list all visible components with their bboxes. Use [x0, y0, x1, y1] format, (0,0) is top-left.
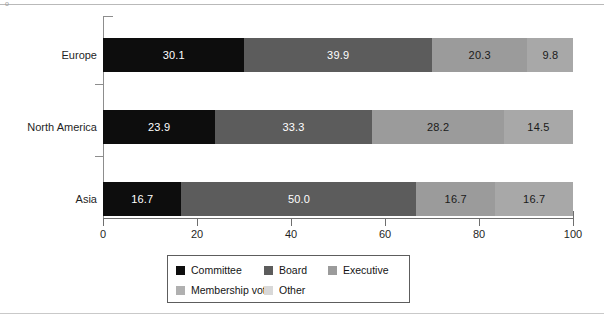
bar-row: 30.139.920.39.8 — [103, 38, 573, 72]
bar-segment-value: 33.3 — [282, 121, 304, 134]
legend-swatch-icon — [176, 286, 185, 295]
bar-segment: 9.8 — [527, 38, 573, 72]
plot-area: 30.139.920.39.823.933.328.214.516.750.01… — [103, 16, 573, 218]
x-axis-tick-label: 60 — [365, 228, 405, 241]
bar-row: 16.750.016.716.7 — [103, 182, 573, 216]
legend-item[interactable]: Other — [264, 280, 305, 300]
bar-segment-value: 16.7 — [523, 193, 545, 206]
bar-segment-value: 16.7 — [445, 193, 467, 206]
bar-segment: 14.5 — [504, 110, 572, 144]
legend-item[interactable]: Committee — [176, 260, 242, 280]
bar-segment: 20.3 — [432, 38, 527, 72]
x-axis-tick — [573, 219, 574, 226]
bar-segment-value: 50.0 — [288, 193, 310, 206]
x-axis-tick — [197, 219, 198, 226]
bar-segment-value: 23.9 — [148, 121, 170, 134]
legend-item[interactable]: Board — [264, 260, 307, 280]
bar-segment-value: 30.1 — [163, 49, 185, 62]
category-label: Europe — [5, 49, 97, 62]
bar-segment-value: 9.8 — [542, 49, 558, 62]
legend-label: Board — [279, 264, 307, 276]
bar-segment-value: 14.5 — [527, 121, 549, 134]
legend-swatch-icon — [328, 266, 337, 275]
x-axis-tick-label: 20 — [177, 228, 217, 241]
legend-swatch-icon — [264, 266, 273, 275]
x-axis-tick-label: 80 — [459, 228, 499, 241]
x-axis-tick — [291, 219, 292, 226]
bar-segment: 50.0 — [181, 182, 416, 216]
stacked-bar-chart-figure: 020406080100 EuropeNorth AmericaAsia 30.… — [0, 0, 604, 323]
legend-label: Membership vote — [191, 284, 272, 296]
legend-row-1: CommitteeBoardExecutive — [168, 260, 411, 280]
bar-segment-value: 20.3 — [469, 49, 491, 62]
x-axis-spine — [103, 218, 574, 219]
legend-label: Executive — [343, 264, 389, 276]
category-label: North America — [5, 121, 97, 134]
bar-row: 23.933.328.214.5 — [103, 110, 573, 144]
legend-item[interactable]: Executive — [328, 260, 389, 280]
bar-segment: 30.1 — [103, 38, 244, 72]
legend-label: Committee — [191, 264, 242, 276]
bar-segment-value: 28.2 — [427, 121, 449, 134]
chart-legend: CommitteeBoardExecutive Membership voteO… — [167, 255, 410, 303]
bar-segment-value: 16.7 — [131, 193, 153, 206]
legend-row-2: Membership voteOther — [168, 280, 411, 300]
x-axis-tick-label: 100 — [553, 228, 593, 241]
bar-segment-value: 39.9 — [327, 49, 349, 62]
bar-segment: 16.7 — [103, 182, 181, 216]
x-axis-tick-label: 40 — [271, 228, 311, 241]
legend-swatch-icon — [264, 286, 273, 295]
x-axis-tick — [103, 219, 104, 226]
bar-segment: 28.2 — [372, 110, 505, 144]
bar-segment: 16.7 — [416, 182, 494, 216]
legend-item[interactable]: Membership vote — [176, 280, 272, 300]
x-axis-tick — [479, 219, 480, 226]
legend-label: Other — [279, 284, 305, 296]
bar-segment: 33.3 — [215, 110, 372, 144]
category-label: Asia — [5, 193, 97, 206]
x-axis-tick-label: 0 — [83, 228, 123, 241]
bar-segment: 39.9 — [244, 38, 432, 72]
bar-segment: 16.7 — [495, 182, 573, 216]
legend-swatch-icon — [176, 266, 185, 275]
x-axis-tick — [385, 219, 386, 226]
bar-segment: 23.9 — [103, 110, 215, 144]
